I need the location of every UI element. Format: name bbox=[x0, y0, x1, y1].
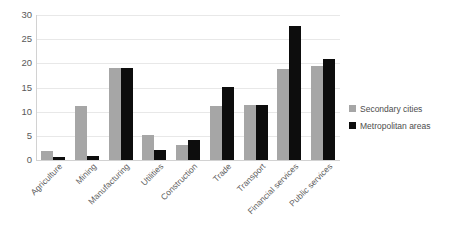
legend-label-metropolitan-areas: Metropolitan areas bbox=[360, 121, 430, 131]
y-tick-label-25: 25 bbox=[4, 34, 32, 44]
plot-area bbox=[36, 15, 340, 160]
y-axis-tick-labels: 30 25 20 15 10 5 0 bbox=[0, 15, 32, 160]
y-tick-label-10: 10 bbox=[4, 107, 32, 117]
bar-group-construction bbox=[171, 15, 205, 160]
bar-public-services-secondary-cities bbox=[311, 66, 323, 160]
y-tick-label-20: 20 bbox=[4, 59, 32, 69]
bar-public-services-metropolitan-areas bbox=[323, 59, 335, 160]
bar-group-public-services bbox=[306, 15, 340, 160]
y-tick-label-0: 0 bbox=[4, 155, 32, 165]
gridline-0 bbox=[36, 160, 340, 161]
bar-transport-secondary-cities bbox=[244, 105, 256, 160]
bar-construction-metropolitan-areas bbox=[188, 140, 200, 160]
legend-swatch-secondary-cities-icon bbox=[349, 105, 356, 112]
bar-trade-metropolitan-areas bbox=[222, 87, 234, 160]
x-tick-label-mining: Mining bbox=[74, 162, 98, 186]
bar-agriculture-metropolitan-areas bbox=[53, 157, 65, 160]
bar-group-transport bbox=[239, 15, 273, 160]
legend-item-secondary-cities: Secondary cities bbox=[349, 100, 454, 117]
x-tick-label-agriculture: Agriculture bbox=[29, 162, 64, 197]
bar-trade-secondary-cities bbox=[210, 106, 222, 160]
bar-agriculture-secondary-cities bbox=[41, 151, 53, 160]
x-axis-tick-labels: Agriculture Mining Manufacturing Utiliti… bbox=[36, 162, 340, 232]
bar-mining-secondary-cities bbox=[75, 106, 87, 160]
bar-group-financial-services bbox=[272, 15, 306, 160]
bar-financial-services-metropolitan-areas bbox=[289, 26, 301, 160]
bar-chart: 30 25 20 15 10 5 0 Agriculture Mining Ma… bbox=[0, 0, 456, 235]
bar-transport-metropolitan-areas bbox=[256, 105, 268, 160]
chart-legend: Secondary cities Metropolitan areas bbox=[349, 100, 454, 134]
y-tick-label-5: 5 bbox=[4, 131, 32, 141]
x-tick-label-utilities: Utilities bbox=[140, 162, 165, 187]
bar-group-manufacturing bbox=[104, 15, 138, 160]
bar-mining-metropolitan-areas bbox=[87, 156, 99, 160]
y-tick-label-15: 15 bbox=[4, 83, 32, 93]
bar-group-utilities bbox=[137, 15, 171, 160]
legend-item-metropolitan-areas: Metropolitan areas bbox=[349, 117, 454, 134]
legend-swatch-metropolitan-areas-icon bbox=[349, 122, 356, 129]
bar-group-trade bbox=[205, 15, 239, 160]
x-tick-label-transport: Transport bbox=[235, 162, 267, 194]
bar-manufacturing-secondary-cities bbox=[109, 68, 121, 160]
x-tick-label-trade: Trade bbox=[211, 162, 232, 183]
bar-financial-services-secondary-cities bbox=[277, 69, 289, 160]
bar-construction-secondary-cities bbox=[176, 145, 188, 160]
y-axis-line bbox=[36, 15, 37, 161]
bar-utilities-metropolitan-areas bbox=[154, 150, 166, 160]
legend-label-secondary-cities: Secondary cities bbox=[360, 104, 422, 114]
bar-utilities-secondary-cities bbox=[142, 135, 154, 160]
bar-manufacturing-metropolitan-areas bbox=[121, 68, 133, 160]
bar-group-mining bbox=[70, 15, 104, 160]
y-tick-label-30: 30 bbox=[4, 10, 32, 20]
bar-group-agriculture bbox=[36, 15, 70, 160]
